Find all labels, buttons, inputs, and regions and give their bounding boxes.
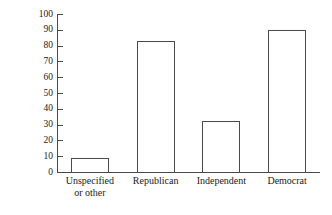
y-axis-tick [58,61,63,62]
x-axis-tick-label: Democrat [237,175,332,187]
bar [202,121,240,173]
y-axis-tick [58,46,63,47]
bar [137,41,175,173]
y-axis-tick-label: 80 [31,41,53,51]
y-axis-tick-label: 20 [31,136,53,146]
y-axis-tick [58,30,63,31]
y-axis-tick-label: 50 [31,89,53,99]
y-axis-tick [58,125,63,126]
y-axis-tick-label: 40 [31,104,53,114]
y-axis-tick [58,156,63,157]
y-axis-tick-label: 90 [31,25,53,35]
y-axis-tick-label: 0 [31,168,53,178]
y-axis-tick [58,109,63,110]
y-axis-tick-label: 70 [31,57,53,67]
category-separator [189,14,190,173]
y-axis-tick-label: 10 [31,152,53,162]
y-axis-tick [58,140,63,141]
bar-chart: Frequency Unspecified or otherRepublican… [0,0,332,215]
category-separator [254,14,255,173]
y-axis-tick-label: 60 [31,73,53,83]
y-axis-tick-label: 30 [31,120,53,130]
plot-area [57,14,320,172]
bar [71,158,109,173]
y-axis-tick [58,93,63,94]
y-axis-tick [58,172,63,173]
y-axis-tick [58,77,63,78]
y-axis-tick-label: 100 [31,10,53,20]
category-separator [123,14,124,173]
y-axis-tick [58,14,63,15]
bar [268,30,306,173]
